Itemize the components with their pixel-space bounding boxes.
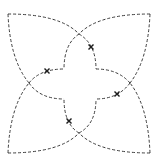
bottom-left-petal-bottom-curve bbox=[8, 133, 79, 153]
curve-group bbox=[8, 14, 150, 153]
x-marker-icon bbox=[45, 69, 50, 74]
top-right-petal-top-curve bbox=[79, 14, 150, 34]
marker-group bbox=[45, 45, 120, 124]
bottom-cross-right-curve bbox=[79, 99, 96, 133]
right-cross-bottom-curve bbox=[96, 83, 130, 99]
bottom-right-petal-bottom-curve bbox=[79, 133, 150, 153]
top-right-petal-right-curve bbox=[130, 14, 150, 83]
left-cross-bottom-curve bbox=[29, 83, 64, 99]
top-left-petal-left-curve bbox=[8, 14, 29, 83]
top-left-petal-top-curve bbox=[8, 14, 79, 34]
bottom-cross-left-curve bbox=[64, 99, 79, 133]
x-marker-icon bbox=[89, 45, 94, 50]
x-marker-icon bbox=[67, 119, 72, 124]
bottom-left-petal-left-curve bbox=[8, 83, 29, 153]
x-marker-icon bbox=[115, 92, 120, 97]
top-cross-right-curve bbox=[79, 34, 96, 69]
bottom-right-petal-right-curve bbox=[130, 83, 150, 153]
right-cross-top-curve bbox=[96, 69, 130, 83]
dashed-curve-diagram bbox=[0, 0, 158, 163]
top-cross-left-curve bbox=[64, 34, 79, 69]
